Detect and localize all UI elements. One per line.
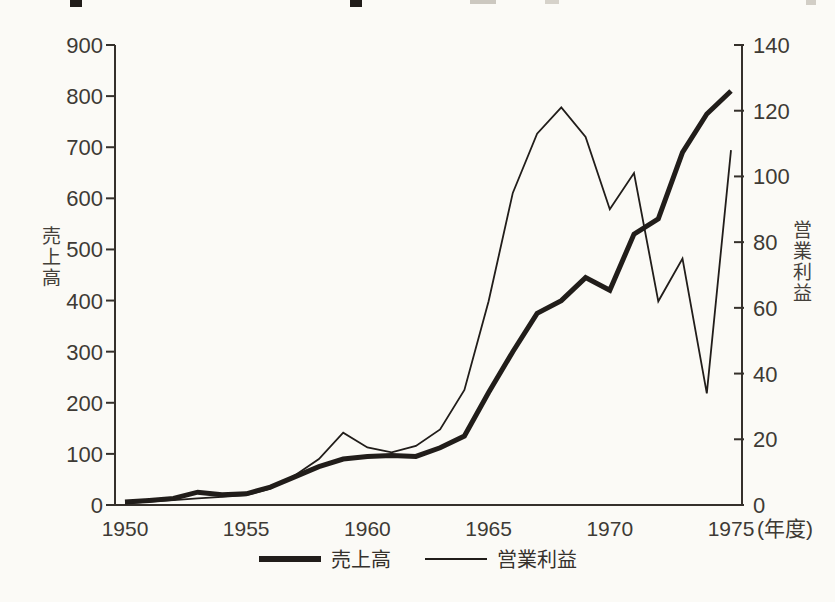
series-line-sales xyxy=(125,91,731,502)
legend-item-operating-profit: 営業利益 xyxy=(425,544,577,573)
right-axis-tick-label: 60 xyxy=(753,296,777,321)
right-axis-tick-label: 140 xyxy=(753,33,790,58)
right-axis-tick-label: 40 xyxy=(753,362,777,387)
right-axis-tick-label: 20 xyxy=(753,427,777,452)
legend-item-sales: 売上高 xyxy=(259,544,391,573)
left-axis-tick-label: 400 xyxy=(66,289,103,314)
series-line-operating-profit xyxy=(125,107,731,503)
left-axis-title: 売上高 xyxy=(36,226,63,289)
left-axis-tick-label: 100 xyxy=(66,442,103,467)
left-axis-tick-label: 700 xyxy=(66,135,103,160)
x-axis-tick-label: 1975 xyxy=(708,517,755,540)
legend-label-sales: 売上高 xyxy=(331,544,391,573)
thin-line-swatch xyxy=(425,558,487,560)
scanned-chart-page: 0100200300400500600700800900020406080100… xyxy=(0,0,835,602)
right-axis-tick-label: 100 xyxy=(753,164,790,189)
thick-line-swatch xyxy=(259,556,321,562)
x-axis-tick-label: 1970 xyxy=(586,517,633,540)
x-axis-unit-label: (年度) xyxy=(757,517,813,540)
chart-legend: 売上高 営業利益 xyxy=(0,544,835,573)
left-axis-tick-label: 900 xyxy=(66,33,103,58)
line-chart-canvas: 0100200300400500600700800900020406080100… xyxy=(0,0,835,602)
left-axis-tick-label: 0 xyxy=(91,493,103,518)
left-axis-tick-label: 600 xyxy=(66,186,103,211)
left-axis-tick-label: 300 xyxy=(66,340,103,365)
right-axis-tick-label: 80 xyxy=(753,230,777,255)
right-axis-title: 営業利益 xyxy=(787,220,814,304)
left-axis-tick-label: 800 xyxy=(66,84,103,109)
x-axis-tick-label: 1955 xyxy=(223,517,270,540)
x-axis-tick-label: 1950 xyxy=(102,517,149,540)
right-axis-tick-label: 120 xyxy=(753,99,790,124)
x-axis-tick-label: 1960 xyxy=(344,517,391,540)
legend-label-operating-profit: 営業利益 xyxy=(497,544,577,573)
left-axis-tick-label: 500 xyxy=(66,237,103,262)
x-axis-tick-label: 1965 xyxy=(465,517,512,540)
left-axis-tick-label: 200 xyxy=(66,391,103,416)
right-axis-tick-label: 0 xyxy=(753,493,765,518)
